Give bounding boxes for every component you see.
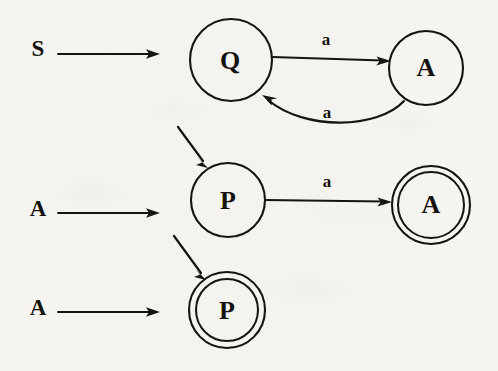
edge-a-to-q-path [268,100,404,123]
edge-label-p-to-a: a [323,172,332,191]
state-a-top-label: A [417,53,436,82]
edge-label-q-to-a: a [322,30,331,49]
state-node-q[interactable]: Q [190,19,272,101]
edge-q-to-a: a [272,30,391,66]
state-diagram-svg: S A A A (top, straight) ============ --> [0,0,498,371]
state-a-accepting-label: A [422,190,441,219]
state-node-a-accepting[interactable]: A [392,166,470,244]
input-label-a-middle: A [30,196,47,221]
edge-a-to-q: a [262,95,404,123]
state-p-label: P [220,186,236,215]
state-node-p-accepting[interactable]: P [189,272,265,348]
start-marker-a-bottom: A [30,295,160,320]
edge-p-to-a: a [265,172,392,207]
state-q-label: Q [220,46,240,75]
edge-p-to-a-line [265,200,384,202]
input-label-s: S [32,36,45,61]
start-marker-a-middle: A [30,196,160,221]
edge-start-to-p-accepting [174,236,206,280]
edge-label-a-to-q: a [323,103,332,122]
diagram-canvas: S A A A (top, straight) ============ --> [0,0,498,371]
state-node-a-top[interactable]: A [389,31,463,105]
state-node-p[interactable]: P [191,163,265,237]
input-label-a-bottom: A [30,295,47,320]
state-p-accepting-label: P [219,296,235,325]
edge-q-to-a-line [272,57,383,61]
edge-start-to-p [178,127,208,168]
start-marker-s: S [32,36,160,61]
edge-start-to-p-line [178,127,203,161]
edge-start-to-p-accepting-line [174,236,201,273]
